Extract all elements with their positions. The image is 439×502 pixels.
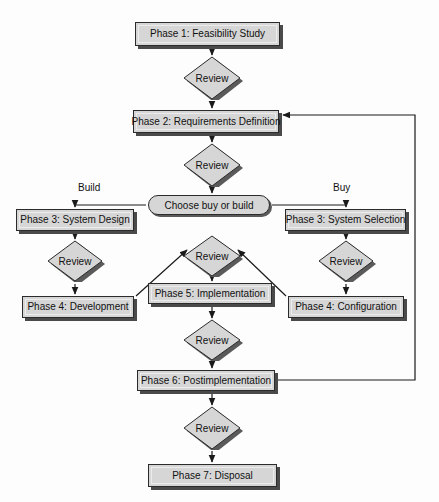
- edge-choose-phase3buy: [272, 205, 346, 207]
- process-node-label: Phase 3: System Selection: [286, 215, 406, 225]
- decision-node-label: Review: [45, 240, 105, 282]
- branch-label-buy: Buy: [333, 182, 350, 193]
- decision-node-review-3[interactable]: Review: [45, 240, 105, 282]
- decision-node-label: Review: [181, 319, 243, 361]
- decision-node-review-4[interactable]: Review: [181, 235, 243, 277]
- terminal-node-label: Choose buy or build: [165, 200, 254, 211]
- process-node-phase3-system-design[interactable]: Phase 3: System Design: [16, 209, 134, 231]
- decision-node-review-5[interactable]: Review: [316, 240, 376, 282]
- decision-node-label: Review: [181, 56, 243, 100]
- process-node-phase3-system-selection[interactable]: Phase 3: System Selection: [285, 209, 406, 231]
- process-node-phase7[interactable]: Phase 7: Disposal: [148, 464, 277, 487]
- decision-node-review-2[interactable]: Review: [181, 143, 243, 187]
- decision-node-label: Review: [181, 235, 243, 277]
- process-node-label: Phase 4: Configuration: [295, 302, 397, 312]
- process-node-phase1[interactable]: Phase 1: Feasibility Study: [135, 22, 280, 46]
- decision-node-review-6[interactable]: Review: [181, 319, 243, 361]
- process-node-label: Phase 6: Postimplementation: [141, 376, 271, 386]
- process-node-phase4-configuration[interactable]: Phase 4: Configuration: [288, 296, 404, 318]
- process-node-label: Phase 7: Disposal: [172, 471, 253, 481]
- decision-node-review-7[interactable]: Review: [181, 406, 243, 450]
- decision-node-label: Review: [181, 143, 243, 187]
- process-node-label: Phase 3: System Design: [20, 215, 130, 225]
- process-node-phase6[interactable]: Phase 6: Postimplementation: [137, 370, 275, 391]
- decision-node-label: Review: [181, 406, 243, 450]
- decision-node-label: Review: [316, 240, 376, 282]
- process-node-label: Phase 2: Requirements Definition: [132, 117, 281, 127]
- flowchart-canvas: Phase 1: Feasibility Study Phase 2: Requ…: [0, 0, 439, 502]
- decision-node-review-1[interactable]: Review: [181, 56, 243, 100]
- branch-label-build: Build: [78, 182, 100, 193]
- process-node-phase4-development[interactable]: Phase 4: Development: [22, 296, 134, 318]
- process-node-label: Phase 5: Implementation: [155, 289, 266, 299]
- process-node-phase5[interactable]: Phase 5: Implementation: [148, 283, 272, 304]
- process-node-label: Phase 4: Development: [27, 302, 128, 312]
- edge-choose-phase3build: [75, 205, 146, 207]
- process-node-label: Phase 1: Feasibility Study: [150, 29, 265, 39]
- terminal-node-choose-buy-or-build[interactable]: Choose buy or build: [148, 195, 270, 215]
- process-node-phase2[interactable]: Phase 2: Requirements Definition: [133, 110, 279, 133]
